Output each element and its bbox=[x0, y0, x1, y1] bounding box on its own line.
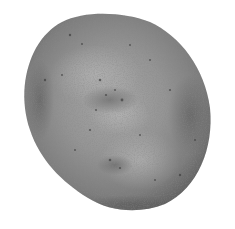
natural-image-scene bbox=[0, 0, 235, 229]
stone-illustration bbox=[0, 0, 235, 229]
stone bbox=[0, 0, 235, 229]
